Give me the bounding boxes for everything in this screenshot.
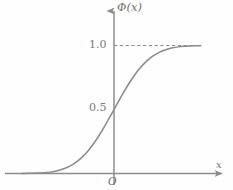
y-tick-label-1.0: 1.0 xyxy=(89,39,107,50)
y-axis-label: Φ(x) xyxy=(117,2,142,14)
y-tick-label-0.5: 0.5 xyxy=(89,102,107,113)
chart-figure: Φ(x) x O 1.0 0.5 xyxy=(0,0,233,190)
x-axis-label: x xyxy=(216,160,222,170)
origin-label: O xyxy=(108,176,117,187)
plot-canvas xyxy=(0,0,233,190)
normal-cdf-curve xyxy=(22,46,201,174)
